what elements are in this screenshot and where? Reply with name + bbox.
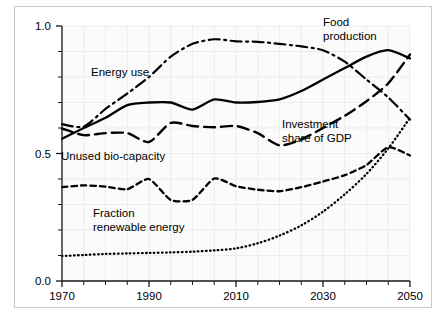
- x-tick-label: 2010: [223, 290, 249, 302]
- chart-figure: 197019902010203020500.00.51.0 Energy use…: [0, 0, 445, 321]
- x-tick-label: 1970: [49, 290, 75, 302]
- x-tick-label: 2030: [310, 290, 336, 302]
- y-tick-label: 1.0: [35, 20, 51, 32]
- line-chart: 197019902010203020500.00.51.0 Energy use…: [0, 0, 445, 321]
- annotation-energy-use: Energy use: [91, 66, 149, 78]
- y-tick-label: 0.5: [35, 148, 51, 160]
- x-tick-label: 1990: [136, 290, 162, 302]
- x-tick-label: 2050: [397, 290, 423, 302]
- annotation-unused-biocapacity: Unused bio-capacity: [61, 150, 165, 162]
- y-tick-label: 0.0: [35, 275, 51, 287]
